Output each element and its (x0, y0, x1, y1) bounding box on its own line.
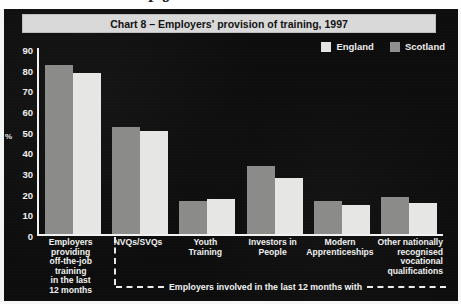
y-axis-tick-labels: 0102030405060708090 (7, 48, 33, 236)
category-label-4: Investors inPeople (235, 238, 310, 257)
bar-group-6 (376, 48, 443, 234)
page-text-sliver: P 8 (0, 0, 461, 9)
category-label-3: YouthTraining (168, 238, 243, 257)
chart-title: Chart 8 – Employers' provision of traini… (110, 18, 348, 30)
bar-england-4 (275, 178, 303, 234)
category-label-6: Other nationallyrecognisedvocationalqual… (364, 238, 443, 276)
y-tick-70: 70 (7, 86, 33, 97)
bar-group-4 (241, 48, 308, 234)
x-axis-line (37, 234, 443, 236)
category-label-line: People (235, 248, 310, 258)
figure-border-left (0, 9, 4, 304)
y-axis-title: % (5, 132, 12, 141)
y-tick-80: 80 (7, 65, 33, 76)
bar-group-3 (174, 48, 241, 234)
footnote-dash-right-icon (367, 286, 446, 288)
chart-figure-panel: Chart 8 – Employers' provision of traini… (0, 9, 461, 304)
bar-series-container (39, 48, 443, 234)
bar-scotland-5 (314, 201, 342, 234)
footnote-bracket: Employers involved in the last 12 months… (116, 281, 446, 293)
bar-group-5 (308, 48, 375, 234)
bar-scotland-2 (112, 127, 140, 234)
y-tick-90: 90 (7, 45, 33, 56)
bar-scotland-1 (45, 65, 73, 234)
bar-scotland-4 (247, 166, 275, 234)
bar-group-2 (106, 48, 173, 234)
bar-scotland-6 (381, 197, 409, 234)
y-tick-30: 30 (7, 169, 33, 180)
category-label-line: 12 months (34, 286, 107, 296)
category-divider-dashed (114, 237, 116, 285)
footnote-text: Employers involved in the last 12 months… (169, 282, 362, 292)
category-label-line: qualifications (364, 267, 443, 277)
y-tick-60: 60 (7, 107, 33, 118)
chart-title-banner: Chart 8 – Employers' provision of traini… (22, 14, 436, 33)
bar-england-1 (73, 73, 101, 234)
category-label-1: Employersprovidingoff-the-jobtrainingin … (34, 238, 107, 296)
cut-off-header-text: P 8 (148, 0, 171, 6)
plot-area: 0102030405060708090 (37, 48, 443, 236)
footnote-dash-left-icon (116, 286, 164, 288)
category-label-2: NVQs/SVQs (100, 238, 175, 248)
bar-england-3 (207, 199, 235, 234)
y-tick-10: 10 (7, 210, 33, 221)
bar-group-1 (39, 48, 106, 234)
screenshot-root: P 8 Chart 8 – Employers' provision of tr… (0, 0, 461, 304)
category-label-line: Training (168, 248, 243, 258)
y-tick-20: 20 (7, 189, 33, 200)
y-tick-40: 40 (7, 148, 33, 159)
bar-england-5 (342, 205, 370, 234)
bar-england-6 (409, 203, 437, 234)
category-label-line: NVQs/SVQs (100, 238, 175, 248)
y-tick-0: 0 (7, 231, 33, 242)
bar-england-2 (140, 131, 168, 234)
bar-scotland-3 (179, 201, 207, 234)
